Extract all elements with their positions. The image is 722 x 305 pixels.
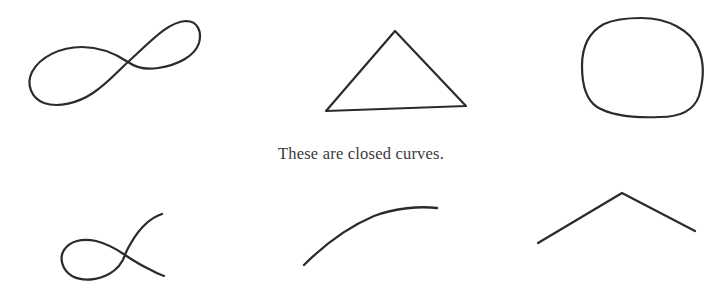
closed-curves-row [29,18,702,117]
figure-container: These are closed curves. [0,0,722,305]
figure-caption: These are closed curves. [0,143,722,165]
circle-curve [582,18,703,117]
open-curves-row [62,193,695,280]
triangle-curve [326,31,466,111]
arc-open-curve [304,207,437,265]
chevron-open-curve [538,193,695,243]
looped-open-curve [62,214,164,280]
caption-text: These are closed curves. [278,144,444,163]
figure-eight-curve [29,21,199,105]
